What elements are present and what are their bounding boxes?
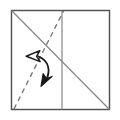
figure-svg [0, 0, 120, 120]
origami-diagram [0, 0, 120, 120]
